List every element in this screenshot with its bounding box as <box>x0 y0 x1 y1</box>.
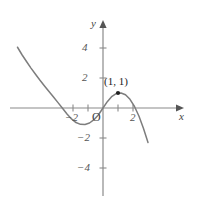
point-annotation-label: (1, 1) <box>104 76 128 87</box>
coordinate-plot <box>0 0 198 202</box>
y-tick-label-4: 4 <box>82 42 88 53</box>
y-axis-label: y <box>91 18 96 29</box>
y-tick-label-neg2: −2 <box>77 132 90 143</box>
x-tick-label-2: 2 <box>130 112 136 123</box>
point-marker <box>116 91 120 95</box>
function-curve <box>18 47 149 142</box>
x-axis-label: x <box>179 111 184 122</box>
origin-label: O <box>92 111 101 123</box>
y-tick-label-2: 2 <box>82 72 88 83</box>
x-tick-label-neg2: −2 <box>65 112 78 123</box>
y-tick-label-neg4: −4 <box>77 162 90 173</box>
graph-figure: 4 2 −2 −4 −2 2 O y x (1, 1) <box>0 0 198 202</box>
